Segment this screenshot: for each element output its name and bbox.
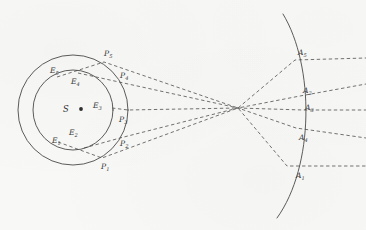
wavefront-circles: [18, 55, 128, 165]
arc-point-label-a5: A5: [297, 48, 307, 58]
inner-point-label-e4: E4: [70, 77, 80, 87]
inner-point-label-e1: E1: [51, 136, 61, 146]
arc-point-label-a4: A4: [298, 133, 308, 143]
inner-point-label-e3: E3: [92, 101, 103, 111]
source-point-dot: [79, 107, 83, 111]
source-group: S: [63, 104, 83, 114]
outer-point-label-p4: P4: [119, 71, 128, 81]
outer-point-label-p1: P1: [100, 162, 109, 172]
ray-group: [57, 58, 366, 166]
source-label: S: [63, 104, 69, 114]
ray-diagram-svg: S E5E4E3E2E1P5P4P3P2P1A5A2A3A4A1: [0, 0, 366, 230]
arc-point-label-a2: A2: [302, 86, 312, 96]
figure-canvas: S E5E4E3E2E1P5P4P3P2P1A5A2A3A4A1: [0, 0, 366, 230]
outer-wavefront: [18, 55, 128, 165]
label-group: E5E4E3E2E1P5P4P3P2P1A5A2A3A4A1: [49, 48, 314, 181]
arc-point-label-a3: A3: [304, 103, 314, 113]
ray-4: [84, 84, 366, 148]
outer-point-label-p2: P2: [119, 139, 128, 149]
ray-1: [57, 62, 366, 166]
ray-5: [58, 58, 366, 158]
arc-point-label-a1: A1: [295, 171, 305, 181]
inner-point-label-e2: E2: [68, 128, 78, 138]
outer-point-label-p5: P5: [103, 49, 112, 59]
receiving-arc: [277, 14, 306, 218]
outer-point-label-p3: P3: [118, 115, 128, 125]
receiving-arc-group: [277, 14, 306, 218]
inner-point-label-e5: E5: [49, 66, 59, 76]
